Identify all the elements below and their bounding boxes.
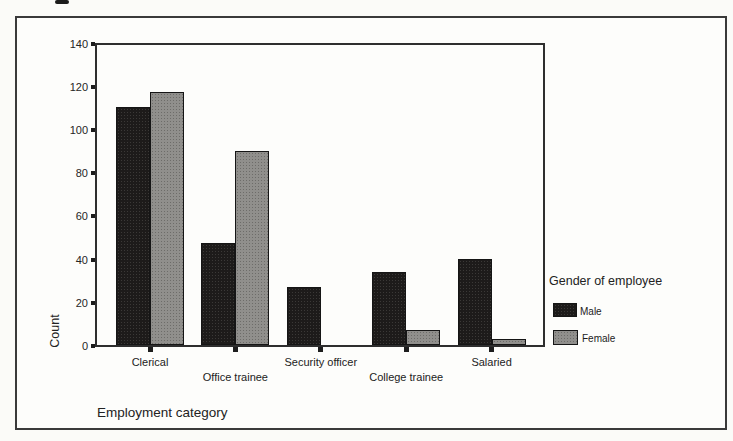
bar-male-security-officer: [287, 287, 321, 345]
y-tick-mark: [91, 42, 95, 46]
y-tick-label: 100: [50, 124, 88, 136]
y-tick-mark: [91, 128, 95, 132]
y-tick-mark: [91, 301, 95, 305]
legend-female-swatch: [553, 330, 578, 345]
y-tick-mark: [91, 171, 95, 175]
bar-female-office-trainee: [235, 151, 269, 345]
y-axis-title: Count: [48, 314, 62, 347]
x-category-label: Clerical: [80, 356, 220, 368]
x-tick-mark: [404, 347, 409, 352]
y-tick-label: 60: [50, 210, 88, 222]
y-tick-mark: [91, 85, 95, 89]
y-tick-label: 40: [50, 254, 88, 266]
x-tick-mark: [318, 347, 323, 352]
x-tick-mark: [233, 347, 238, 352]
bar-male-office-trainee: [201, 243, 235, 345]
bar-female-salaried: [492, 339, 526, 345]
x-category-label: Office trainee: [165, 371, 305, 383]
y-tick-label: 140: [50, 38, 88, 50]
bar-male-college-trainee: [372, 272, 406, 345]
plot-right-border: [543, 43, 545, 347]
y-tick-label: 20: [50, 297, 88, 309]
y-tick-label: 120: [50, 81, 88, 93]
x-tick-mark: [148, 347, 153, 352]
x-axis-title: Employment category: [97, 405, 228, 420]
y-tick-mark: [91, 258, 95, 262]
bar-female-clerical: [150, 92, 184, 345]
bar-male-salaried: [458, 259, 492, 345]
x-category-label: Salaried: [422, 356, 562, 368]
bar-male-clerical: [116, 107, 150, 345]
legend-female-label: Female: [582, 333, 615, 344]
cropped-caption-fragment: [55, 0, 69, 4]
scanned-chart-page: { "chart_data": { "type": "bar", "title"…: [0, 0, 733, 441]
legend-male-label: Male: [580, 306, 602, 317]
plot-top-border: [95, 43, 545, 45]
x-tick-mark: [489, 347, 494, 352]
x-category-label: College trainee: [336, 371, 476, 383]
y-tick-label: 80: [50, 167, 88, 179]
legend-title: Gender of employee: [549, 274, 662, 288]
bar-female-college-trainee: [406, 330, 440, 345]
y-axis-line: [95, 43, 97, 347]
legend-male-swatch: [553, 303, 577, 317]
y-tick-mark: [91, 214, 95, 218]
y-tick-mark: [91, 344, 95, 348]
x-category-label: Security officer: [251, 356, 391, 368]
